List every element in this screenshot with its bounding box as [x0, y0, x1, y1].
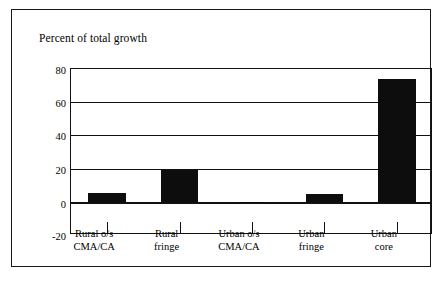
- x-axis-category-label-3: Urban o/s CMA/CA: [203, 228, 275, 253]
- x-axis-category-label-5: Urban core: [348, 228, 420, 253]
- y-axis-tick-label: 40: [56, 131, 67, 142]
- bar-2: [161, 170, 199, 202]
- chart-title: Percent of total growth: [39, 32, 147, 44]
- x-axis-category-label-1: Rural o/s CMA/CA: [58, 228, 130, 253]
- y-axis-tick-label: 80: [56, 65, 67, 76]
- bar-5: [378, 79, 416, 202]
- y-axis-tick-label: 60: [56, 98, 67, 109]
- x-axis-category-label-2: Rural fringe: [130, 228, 202, 253]
- y-axis-tick-label: 20: [56, 164, 67, 175]
- bar-3: [233, 202, 271, 204]
- y-axis-tick-label: 0: [61, 198, 66, 209]
- plot-area: 806040200-20: [70, 68, 432, 234]
- gridline-80: 80: [71, 69, 431, 70]
- x-axis-category-label-4: Urban fringe: [275, 228, 347, 253]
- bar-1: [88, 193, 126, 202]
- bar-4: [306, 194, 344, 201]
